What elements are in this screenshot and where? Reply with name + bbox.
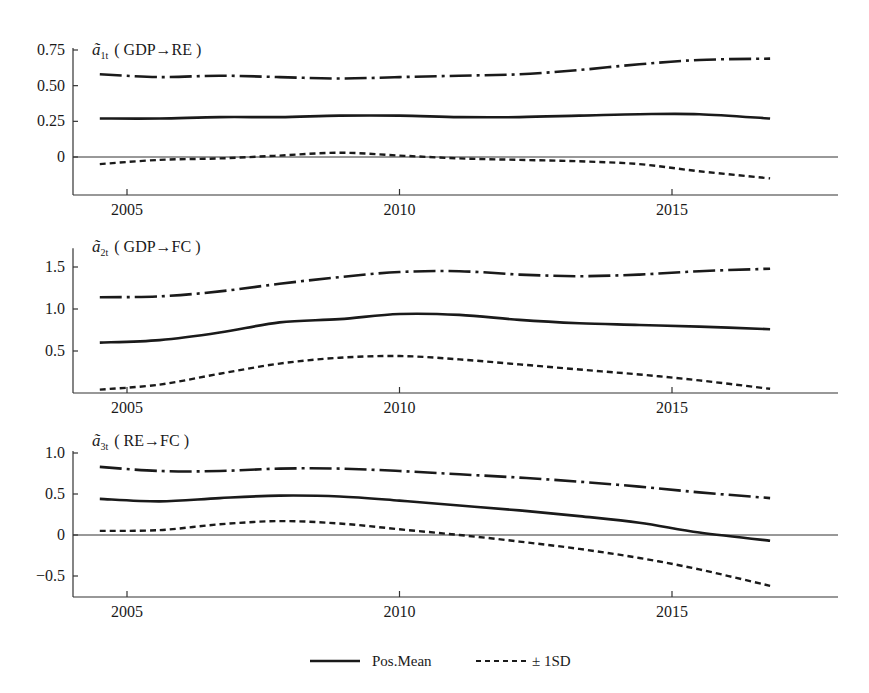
x-tick-label: 2015 bbox=[656, 603, 688, 620]
x-tick-label: 2005 bbox=[111, 603, 143, 620]
x-tick-label: 2010 bbox=[384, 201, 416, 218]
panel-2: 0.51.01.5200520102015ã2t( GDP→FC ) bbox=[45, 237, 838, 416]
panel-title-text: ( RE→FC ) bbox=[114, 432, 189, 450]
y-tick-label: 0.5 bbox=[45, 342, 65, 359]
y-tick-label: 1.0 bbox=[45, 300, 65, 317]
y-tick-label: 0.50 bbox=[37, 77, 65, 94]
y-tick-label: −0.5 bbox=[36, 567, 65, 584]
panel-1: 00.250.500.75200520102015ã1t( GDP→RE ) bbox=[37, 40, 838, 218]
y-tick-label: 0.5 bbox=[45, 485, 65, 502]
panel-title-text: ( GDP→RE ) bbox=[114, 41, 201, 59]
series-pos-mean bbox=[100, 314, 770, 343]
x-tick-label: 2010 bbox=[384, 399, 416, 416]
x-tick-label: 2005 bbox=[111, 201, 143, 218]
panel-3: −0.500.51.0200520102015ã3t( RE→FC ) bbox=[36, 431, 838, 620]
panel-title: ã2t( GDP→FC ) bbox=[92, 237, 201, 258]
y-tick-label: 1.5 bbox=[45, 258, 65, 275]
y-tick-label: 0 bbox=[57, 148, 65, 165]
x-tick-label: 2005 bbox=[111, 399, 143, 416]
series-lower-1sd bbox=[100, 356, 770, 390]
legend-label-pos-mean: Pos.Mean bbox=[372, 653, 432, 669]
series-lower-1sd bbox=[100, 521, 770, 586]
legend-label-sd: ± 1SD bbox=[532, 653, 571, 669]
y-tick-label: 1.0 bbox=[45, 444, 65, 461]
panel-title-subscript: 3t bbox=[101, 441, 109, 452]
panel-title-subscript: 1t bbox=[101, 50, 109, 61]
panel-title: ã1t( GDP→RE ) bbox=[92, 40, 201, 61]
series-pos-mean bbox=[100, 114, 770, 119]
x-tick-label: 2010 bbox=[384, 603, 416, 620]
series-upper-1sd bbox=[100, 59, 770, 79]
y-tick-label: 0.75 bbox=[37, 41, 65, 58]
series-pos-mean bbox=[100, 496, 770, 541]
series-upper-1sd bbox=[100, 467, 770, 498]
x-tick-label: 2015 bbox=[656, 399, 688, 416]
chart-canvas: 00.250.500.75200520102015ã1t( GDP→RE )0.… bbox=[0, 0, 869, 693]
panel-title-text: ( GDP→FC ) bbox=[114, 238, 200, 256]
y-tick-label: 0.25 bbox=[37, 112, 65, 129]
panel-title: ã3t( RE→FC ) bbox=[92, 431, 189, 452]
legend: Pos.Mean± 1SD bbox=[310, 653, 571, 669]
panel-title-subscript: 2t bbox=[101, 247, 109, 258]
x-tick-label: 2015 bbox=[656, 201, 688, 218]
series-upper-1sd bbox=[100, 269, 770, 298]
y-tick-label: 0 bbox=[57, 526, 65, 543]
